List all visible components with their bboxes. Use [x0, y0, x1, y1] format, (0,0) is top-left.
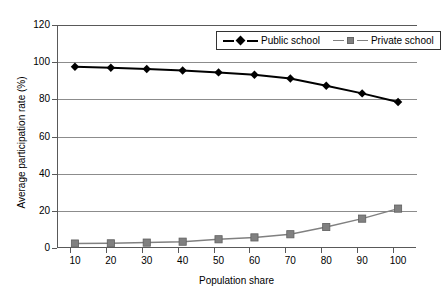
y-axis-tick-label: 120: [24, 19, 50, 30]
square-marker-icon: [347, 37, 354, 44]
legend-line-icon: [247, 40, 258, 42]
legend-entry-public-school: Public school: [223, 35, 320, 46]
chart-figure: Average participation rate (%) 020406080…: [0, 0, 442, 298]
gridline: [58, 25, 417, 26]
gridline: [58, 211, 417, 212]
x-axis-tick-label: 70: [275, 255, 305, 266]
legend-entry-private-school: Private school: [333, 35, 434, 46]
y-axis-tick-label: 40: [24, 168, 50, 179]
legend-label-private-school: Private school: [371, 35, 434, 46]
gridline: [58, 174, 417, 175]
x-axis-tick-label: 30: [132, 255, 162, 266]
plot-area: [57, 25, 416, 248]
x-axis-tick-label: 90: [347, 255, 377, 266]
legend-label-public-school: Public school: [261, 35, 320, 46]
x-axis-tick: [357, 248, 358, 253]
y-axis-tick-label: 60: [24, 131, 50, 142]
x-axis-tick: [70, 248, 71, 253]
x-axis-tick-label: 20: [96, 255, 126, 266]
y-axis-tick-label: 80: [24, 93, 50, 104]
x-axis-title: Population share: [57, 275, 416, 286]
x-axis-tick: [285, 248, 286, 253]
x-axis-tick: [106, 248, 107, 253]
x-axis-tick: [249, 248, 250, 253]
legend-line-icon: [357, 40, 368, 41]
legend-line-icon: [223, 40, 234, 42]
y-axis-tick-label: 20: [24, 205, 50, 216]
gridline: [58, 99, 417, 100]
x-axis-tick-label: 40: [168, 255, 198, 266]
x-axis-tick: [393, 248, 394, 253]
x-axis-tick-label: 50: [204, 255, 234, 266]
x-axis-tick-label: 100: [383, 255, 413, 266]
y-axis-tick: [52, 248, 57, 249]
gridline: [58, 137, 417, 138]
x-axis-tick-label: 80: [311, 255, 341, 266]
legend-line-icon: [333, 40, 344, 41]
x-axis-tick: [178, 248, 179, 253]
gridline: [58, 62, 417, 63]
y-axis-tick-label: 0: [24, 242, 50, 253]
y-axis-tick-label: 100: [24, 56, 50, 67]
x-axis-tick-label: 10: [60, 255, 90, 266]
x-axis-tick: [321, 248, 322, 253]
chart-legend: Public school Private school: [216, 31, 441, 50]
x-axis-tick: [214, 248, 215, 253]
x-axis-tick: [142, 248, 143, 253]
x-axis-tick-label: 60: [239, 255, 269, 266]
diamond-marker-icon: [236, 36, 246, 46]
